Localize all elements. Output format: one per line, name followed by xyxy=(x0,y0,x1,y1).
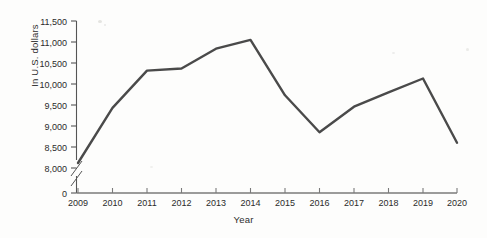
x-tick-label: 2018 xyxy=(378,198,398,208)
y-axis-ticks xyxy=(71,21,77,193)
y-tick-label: 11,000 xyxy=(40,38,67,48)
y-tick-label: 9,000 xyxy=(44,122,67,132)
x-tick-label: 2017 xyxy=(344,198,364,208)
y-tick-label: 10,000 xyxy=(39,80,67,90)
chart-page: 11,500 11,000 10,500 10,000 9,500 9,000 … xyxy=(0,0,487,238)
line-chart: 11,500 11,000 10,500 10,000 9,500 9,000 … xyxy=(0,0,487,238)
y-tick-label: 8,000 xyxy=(44,164,67,174)
y-tick-label: 9,500 xyxy=(44,101,67,111)
x-axis-title: Year xyxy=(0,214,487,225)
data-series-line xyxy=(78,40,457,163)
x-tick-label: 2011 xyxy=(137,198,156,208)
y-tick-label-zero: 0 xyxy=(62,189,67,199)
y-tick-label: 10,500 xyxy=(39,59,67,69)
y-axis-title: In U.S. dollars xyxy=(29,0,40,116)
x-tick-label: 2013 xyxy=(206,198,226,208)
x-axis-ticks xyxy=(78,188,457,193)
x-tick-label: 2015 xyxy=(275,198,295,208)
y-tick-label: 8,500 xyxy=(44,143,67,153)
x-tick-label: 2009 xyxy=(68,198,88,208)
x-tick-label: 2014 xyxy=(240,198,260,208)
y-tick-label: 11,500 xyxy=(40,17,67,27)
x-tick-label: 2019 xyxy=(413,198,433,208)
x-tick-label: 2016 xyxy=(309,198,329,208)
x-tick-label: 2020 xyxy=(447,198,467,208)
x-tick-label: 2012 xyxy=(171,198,191,208)
x-tick-label: 2010 xyxy=(102,198,122,208)
